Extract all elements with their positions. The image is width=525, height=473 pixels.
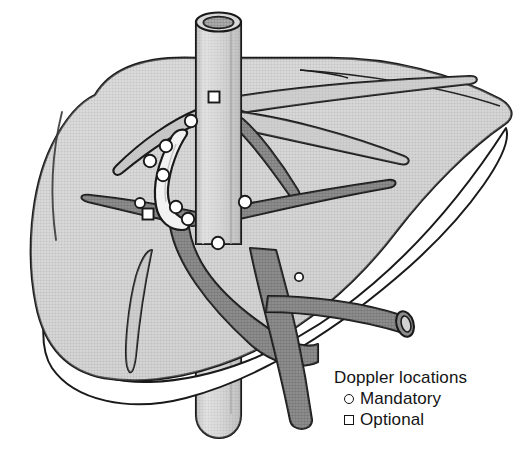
inferior-vena-cava-upper — [196, 13, 241, 245]
marker-mandatory — [212, 237, 224, 249]
marker-mandatory — [170, 201, 182, 213]
legend: Doppler locations Mandatory Optional — [334, 368, 524, 430]
marker-mandatory — [295, 273, 303, 281]
legend-item-mandatory: Mandatory — [334, 389, 524, 409]
legend-item-label: Optional — [360, 410, 424, 430]
marker-mandatory — [182, 213, 194, 225]
legend-title: Doppler locations — [334, 368, 524, 388]
legend-item-optional: Optional — [334, 410, 524, 430]
marker-mandatory — [135, 198, 145, 208]
marker-mandatory — [157, 169, 169, 181]
ivc-cut-top — [196, 13, 241, 32]
marker-mandatory — [185, 115, 197, 127]
legend-item-label: Mandatory — [360, 389, 441, 409]
circle-outline-icon — [344, 394, 354, 404]
marker-optional — [143, 209, 154, 220]
marker-mandatory — [144, 155, 156, 167]
square-outline-icon — [344, 415, 354, 425]
illustration-canvas: Doppler locations Mandatory Optional — [0, 0, 525, 473]
marker-mandatory — [239, 196, 251, 208]
marker-mandatory — [160, 140, 172, 152]
marker-optional — [209, 92, 220, 103]
